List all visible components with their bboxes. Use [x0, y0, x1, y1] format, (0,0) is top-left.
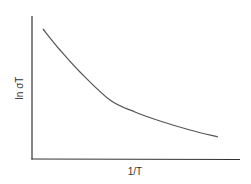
x-axis-label: 1/T: [128, 166, 142, 177]
x-axis: [32, 159, 241, 160]
chart: 1/T ln σT: [0, 0, 251, 184]
curve: [43, 29, 218, 137]
y-axis-label: ln σT: [14, 77, 25, 100]
